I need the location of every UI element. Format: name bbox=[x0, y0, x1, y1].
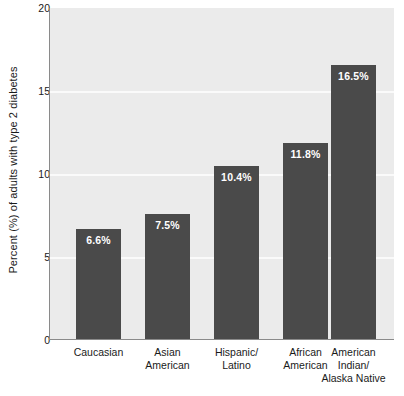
bar-american-indian-alaska-native[interactable]: 16.5% bbox=[331, 65, 376, 339]
bar-chart-figure: Percent (%) of adults with type 2 diabet… bbox=[0, 0, 404, 396]
x-category-line: American bbox=[306, 346, 401, 359]
y-tick-label-10: 10 bbox=[24, 169, 50, 180]
bar-hispanic-latino[interactable]: 10.4% bbox=[214, 166, 259, 339]
y-tick-label-5: 5 bbox=[24, 252, 50, 263]
plot-area: 6.6% 7.5% 10.4% 11.8% 16.5% bbox=[49, 8, 394, 340]
bar-african-american[interactable]: 11.8% bbox=[283, 143, 328, 339]
bar-value-asian-american: 7.5% bbox=[145, 219, 190, 231]
bar-asian-american[interactable]: 7.5% bbox=[145, 214, 190, 339]
y-tick-label-15: 15 bbox=[24, 86, 50, 97]
x-category-line: Indian/ bbox=[306, 359, 401, 372]
bar-caucasian[interactable]: 6.6% bbox=[76, 229, 121, 339]
x-category-label-american-indian-alaska-native: American Indian/ Alaska Native bbox=[306, 346, 401, 385]
bar-value-caucasian: 6.6% bbox=[76, 234, 121, 246]
bar-value-hispanic-latino: 10.4% bbox=[214, 171, 259, 183]
y-tick-label-0: 0 bbox=[24, 335, 50, 346]
bar-value-american-indian-alaska-native: 16.5% bbox=[331, 70, 376, 82]
x-category-line: Alaska Native bbox=[306, 372, 401, 385]
bar-value-african-american: 11.8% bbox=[283, 148, 328, 160]
y-axis-title: Percent (%) of adults with type 2 diabet… bbox=[4, 0, 22, 340]
y-tick-label-20: 20 bbox=[24, 3, 50, 14]
